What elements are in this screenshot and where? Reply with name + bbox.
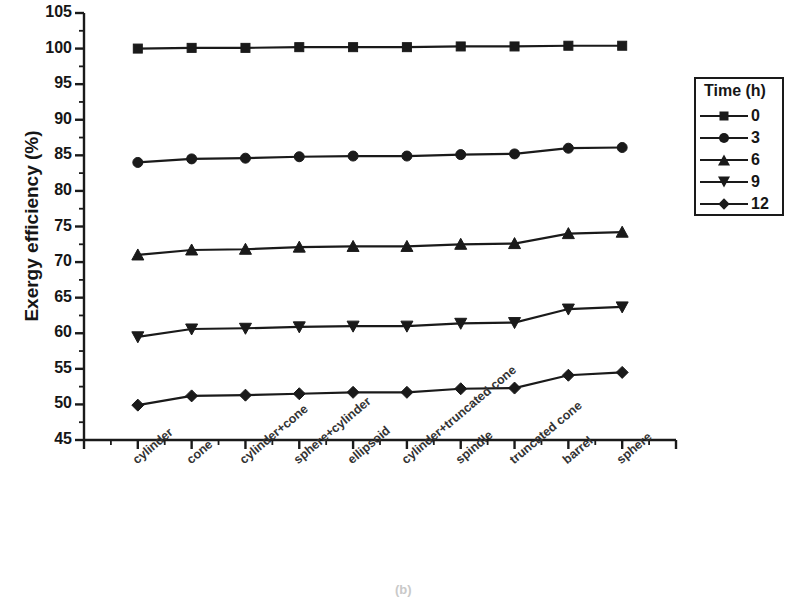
legend-label: 3 bbox=[751, 129, 760, 147]
y-tick-label: 65 bbox=[28, 288, 72, 306]
legend-marker-diamond-icon bbox=[700, 197, 748, 211]
exergy-efficiency-chart: Exergy efficiency (%) 455055606570758085… bbox=[0, 0, 790, 604]
legend-entry: 9 bbox=[700, 171, 784, 193]
legend-marker-square-icon bbox=[700, 109, 748, 123]
y-tick-label: 100 bbox=[28, 39, 72, 57]
legend-marker-triangle-up-icon bbox=[700, 153, 748, 167]
y-tick-label: 45 bbox=[28, 430, 72, 448]
legend-entry: 12 bbox=[700, 193, 784, 215]
circle-icon bbox=[719, 133, 729, 143]
legend-marker-triangle-down-icon bbox=[700, 175, 748, 189]
data-series bbox=[132, 226, 628, 260]
legend-label: 0 bbox=[751, 107, 760, 125]
data-series bbox=[132, 366, 628, 411]
data-series bbox=[133, 143, 627, 168]
y-tick-label: 105 bbox=[28, 3, 72, 21]
y-tick-label: 95 bbox=[28, 74, 72, 92]
legend-entry: 3 bbox=[700, 127, 784, 149]
legend-label: 6 bbox=[751, 151, 760, 169]
triangle-up-icon bbox=[718, 155, 730, 166]
axes bbox=[84, 13, 676, 440]
y-tick-label: 55 bbox=[28, 359, 72, 377]
legend-label: 12 bbox=[751, 195, 769, 213]
y-tick-label: 90 bbox=[28, 110, 72, 128]
data-series bbox=[133, 41, 626, 53]
y-tick-label: 80 bbox=[28, 181, 72, 199]
y-tick-label: 50 bbox=[28, 394, 72, 412]
data-series bbox=[132, 302, 628, 343]
y-tick-label: 75 bbox=[28, 217, 72, 235]
y-tick-label: 70 bbox=[28, 252, 72, 270]
panel-label: (b) bbox=[395, 582, 412, 597]
legend-entry: 6 bbox=[700, 149, 784, 171]
plot-area bbox=[0, 0, 790, 604]
legend-marker-circle-icon bbox=[700, 131, 748, 145]
legend-title: Time (h) bbox=[704, 82, 766, 100]
legend-entry: 0 bbox=[700, 105, 784, 127]
legend-label: 9 bbox=[751, 173, 760, 191]
square-icon bbox=[720, 112, 729, 121]
y-axis-ticks bbox=[75, 13, 84, 440]
triangle-down-icon bbox=[718, 177, 730, 188]
diamond-icon bbox=[718, 198, 729, 209]
y-tick-label: 85 bbox=[28, 145, 72, 163]
y-tick-label: 60 bbox=[28, 323, 72, 341]
legend: Time (h) 036912 bbox=[694, 77, 784, 216]
